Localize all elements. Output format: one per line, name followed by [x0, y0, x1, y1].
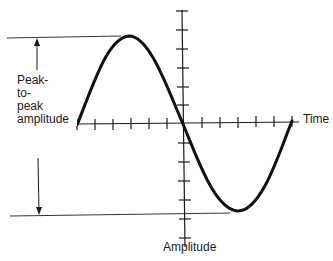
time-axis	[77, 116, 299, 130]
amplitude-axis-label: Amplitude	[163, 241, 216, 254]
trough-reference-line	[10, 213, 230, 216]
peak-reference-line	[7, 36, 121, 38]
time-axis-label: Time	[303, 113, 329, 126]
arrowhead-down-icon	[36, 207, 42, 215]
peak-to-peak-arrow	[34, 38, 42, 215]
peak-label-line-4: amplitude	[17, 113, 77, 126]
arrowhead-up-icon	[34, 38, 40, 46]
peak-to-peak-amplitude-label: Peak- to- peak amplitude	[17, 74, 77, 126]
sine-wave-diagram	[0, 0, 333, 261]
